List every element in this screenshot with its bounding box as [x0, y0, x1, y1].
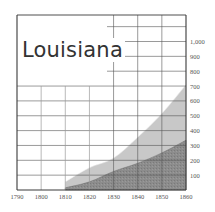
y-tick-label: 400: [190, 127, 200, 134]
x-tick-label: 1840: [126, 193, 150, 200]
y-tick-label: 200: [190, 157, 200, 164]
x-tick-label: 1820: [77, 193, 101, 200]
y-tick-label: 600: [190, 97, 200, 104]
x-tick-label: 1790: [5, 193, 29, 200]
x-tick-label: 1830: [102, 193, 126, 200]
x-tick-label: 1800: [29, 193, 53, 200]
y-tick-label: 700: [190, 83, 200, 90]
y-tick-label: 500: [190, 112, 200, 119]
x-tick-label: 1860: [174, 193, 198, 200]
chart-canvas: [0, 0, 215, 212]
chart-title: Louisiana: [22, 38, 125, 62]
y-tick-label: 1,000: [190, 38, 205, 45]
y-tick-label: 300: [190, 142, 200, 149]
y-tick-label: 100: [190, 172, 200, 179]
x-tick-label: 1810: [53, 193, 77, 200]
y-tick-label: 800: [190, 68, 200, 75]
x-tick-label: 1850: [150, 193, 174, 200]
y-tick-label: 900: [190, 53, 200, 60]
